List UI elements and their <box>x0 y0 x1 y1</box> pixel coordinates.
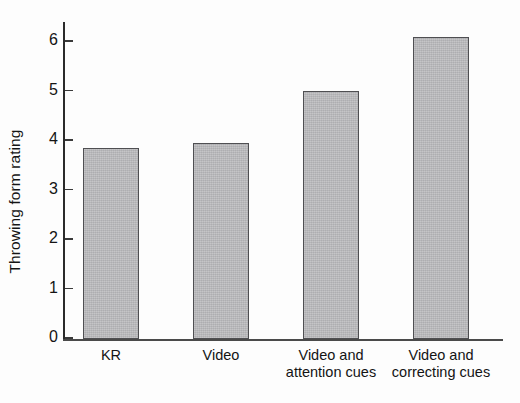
y-tick-label: 1 <box>49 280 58 296</box>
x-tick-label-2: Video and attention cues <box>276 347 386 381</box>
y-tick-label: 3 <box>49 180 58 196</box>
bar-1 <box>193 143 249 339</box>
y-tick-4: 4 <box>65 139 73 141</box>
y-tick-0: 0 <box>65 337 73 339</box>
y-tick-label: 4 <box>49 131 58 147</box>
y-tick-3: 3 <box>65 189 73 191</box>
y-tick-2: 2 <box>65 238 73 240</box>
y-tick-label: 0 <box>49 329 58 345</box>
x-tick-label-1: Video <box>166 347 276 364</box>
x-tick-label-0: KR <box>56 347 166 364</box>
y-tick-label: 5 <box>49 81 58 97</box>
y-tick-5: 5 <box>65 90 73 92</box>
bar-chart-figure: Throwing form rating 0123456 KRVideoVide… <box>0 0 520 403</box>
y-tick-label: 2 <box>49 230 58 246</box>
y-axis-title: Throwing form rating <box>0 0 30 403</box>
y-tick-6: 6 <box>65 40 73 42</box>
bar-0 <box>83 148 139 339</box>
x-tick-label-3: Video and correcting cues <box>386 347 496 381</box>
y-tick-label: 6 <box>49 32 58 48</box>
plot-area: 0123456 KRVideoVideo and attention cuesV… <box>63 22 503 341</box>
bar-2 <box>303 91 359 339</box>
x-axis-line <box>63 339 503 341</box>
y-tick-1: 1 <box>65 288 73 290</box>
y-axis-line <box>63 22 65 341</box>
bar-3 <box>413 37 469 339</box>
